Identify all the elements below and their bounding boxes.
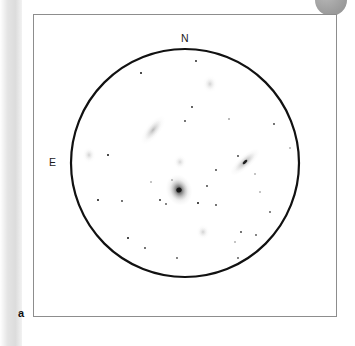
panel-label: a: [18, 308, 24, 319]
page-gutter-shadow: [0, 0, 22, 346]
compass-label-east: E: [49, 157, 56, 168]
figure-frame: [33, 14, 337, 317]
compass-label-north: N: [181, 33, 189, 44]
